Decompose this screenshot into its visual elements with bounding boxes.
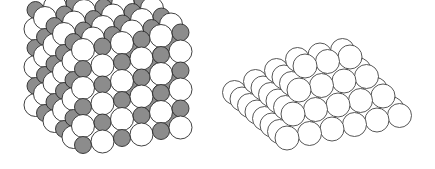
sphere bbox=[338, 45, 362, 69]
small-ion-sphere bbox=[114, 54, 131, 71]
small-ion-sphere bbox=[172, 24, 189, 41]
small-ion-sphere bbox=[172, 62, 189, 79]
sphere bbox=[320, 117, 344, 141]
sphere bbox=[365, 108, 389, 132]
sphere-pyramid-drawing bbox=[215, 0, 435, 169]
small-ion-sphere bbox=[75, 137, 92, 154]
large-ion-sphere bbox=[72, 39, 95, 62]
large-ion-sphere bbox=[130, 123, 153, 146]
sphere bbox=[355, 65, 379, 89]
sphere bbox=[326, 93, 350, 117]
sphere bbox=[316, 50, 340, 74]
small-ion-sphere bbox=[94, 114, 111, 131]
sphere bbox=[275, 126, 299, 150]
small-ion-sphere bbox=[133, 31, 150, 48]
small-ion-sphere bbox=[133, 107, 150, 124]
small-ion-sphere bbox=[153, 123, 170, 140]
sphere bbox=[293, 54, 317, 78]
sphere bbox=[349, 89, 373, 113]
sphere bbox=[298, 122, 322, 146]
large-ion-sphere bbox=[91, 54, 114, 77]
sphere bbox=[281, 102, 305, 126]
small-ion-sphere bbox=[133, 69, 150, 86]
sphere-pyramid-figure bbox=[215, 0, 435, 169]
sphere bbox=[304, 98, 328, 122]
large-ion-sphere bbox=[72, 115, 95, 138]
small-ion-sphere bbox=[75, 99, 92, 116]
large-ion-sphere bbox=[111, 108, 134, 131]
large-ion-sphere bbox=[130, 47, 153, 70]
large-ion-sphere bbox=[150, 63, 173, 86]
small-ion-sphere bbox=[114, 92, 131, 109]
large-ion-sphere bbox=[91, 92, 114, 115]
small-ion-sphere bbox=[153, 85, 170, 102]
sphere bbox=[371, 84, 395, 108]
small-ion-sphere bbox=[94, 38, 111, 55]
small-ion-sphere bbox=[94, 76, 111, 93]
small-ion-sphere bbox=[114, 130, 131, 147]
large-ion-sphere bbox=[169, 40, 192, 63]
sphere bbox=[310, 74, 334, 98]
large-ion-sphere bbox=[150, 101, 173, 124]
large-ion-sphere bbox=[91, 130, 114, 153]
sphere bbox=[343, 113, 367, 137]
sphere bbox=[388, 104, 412, 128]
small-ion-sphere bbox=[153, 47, 170, 64]
rock-salt-lattice-figure bbox=[0, 0, 220, 169]
large-ion-sphere bbox=[111, 32, 134, 55]
large-ion-sphere bbox=[150, 25, 173, 48]
sphere bbox=[287, 78, 311, 102]
sphere bbox=[332, 69, 356, 93]
small-ion-sphere bbox=[75, 61, 92, 78]
large-ion-sphere bbox=[169, 78, 192, 101]
small-ion-sphere bbox=[172, 100, 189, 117]
large-ion-sphere bbox=[130, 85, 153, 108]
rock-salt-lattice-drawing bbox=[0, 0, 220, 169]
large-ion-sphere bbox=[169, 116, 192, 139]
large-ion-sphere bbox=[72, 77, 95, 100]
large-ion-sphere bbox=[111, 70, 134, 93]
